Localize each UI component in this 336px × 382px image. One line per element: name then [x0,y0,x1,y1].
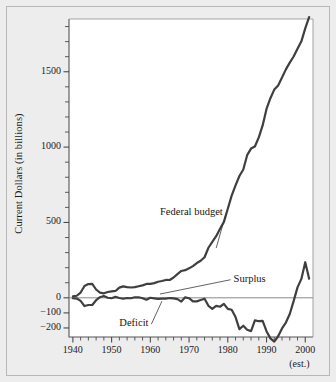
x-tick-label: 1990 [247,344,287,355]
x-tick-label: 1970 [169,344,209,355]
annotation-surplus: Surplus [234,273,266,284]
x-tick-label: 1960 [130,344,170,355]
x-tick-label: 1980 [208,344,248,355]
y-tick-label: 1000 [41,140,61,151]
chart-figure: Current Dollars (in billions) −200−10005… [0,0,336,382]
x-tick-label: 2000 [285,344,325,355]
y-axis-title: Current Dollars (in billions) [13,94,24,254]
y-tick-label: −200 [40,321,61,332]
x-tick-label: 1950 [92,344,132,355]
x-axis-note: (est.) [289,358,309,369]
plot-background [69,19,313,337]
annotation-deficit: Deficit [119,317,148,328]
y-tick-label: 0 [56,291,61,302]
y-tick-label: 1500 [41,65,61,76]
x-tick-label: 1940 [53,344,93,355]
y-tick-label: 500 [46,215,61,226]
y-tick-label: −100 [40,306,61,317]
annotation-federal-budget: Federal budget [160,206,223,217]
